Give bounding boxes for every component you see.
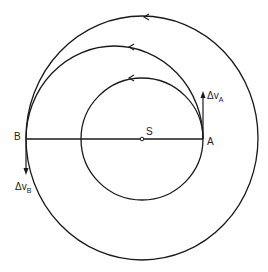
label-b: B (14, 131, 21, 142)
delta-v-a-text: Δv (207, 90, 219, 101)
delta-v-a-arrowhead-icon (201, 91, 206, 98)
label-delta-v-b: ΔvB (15, 181, 32, 194)
transfer-orbit-arrow-icon (129, 44, 134, 50)
label-delta-v-a: ΔvA (207, 90, 224, 103)
delta-v-b-arrowhead-icon (24, 168, 29, 175)
delta-v-b-text: Δv (15, 181, 27, 192)
label-s: S (146, 126, 153, 137)
outer-orbit-arrow-icon (144, 14, 149, 20)
hohmann-diagram: S A B ΔvA ΔvB (0, 0, 268, 272)
label-a: A (207, 136, 214, 147)
delta-v-b-subscript: B (27, 187, 32, 194)
delta-v-a-subscript: A (219, 96, 224, 103)
sun-marker (140, 137, 144, 141)
